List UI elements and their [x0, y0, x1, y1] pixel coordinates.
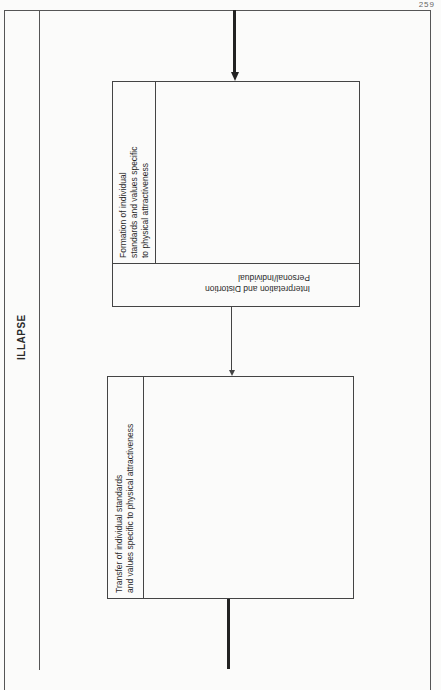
transfer-label-line1: Transfer of individual standards [114, 424, 125, 593]
entry-arrow-line [233, 10, 236, 74]
interpretation-band: Interpretation and Distortion Personal/I… [170, 272, 310, 294]
formation-label: Formation of individual standards and va… [118, 146, 151, 258]
title-column-divider [39, 10, 40, 670]
band-line2: Interpretation and Distortion [170, 283, 310, 294]
connector-line [231, 307, 232, 371]
entry-arrowhead-icon [231, 72, 239, 81]
transfer-label-line2: and values specific to physical attracti… [125, 424, 136, 593]
band-line1: Personal/Individual [170, 272, 310, 283]
exit-line [227, 599, 230, 669]
formation-band-divider [112, 263, 360, 264]
transfer-label: Transfer of individual standards and val… [114, 424, 136, 593]
transfer-box [107, 376, 354, 599]
formation-label-line2: standards and values specific [129, 146, 140, 258]
formation-label-divider [155, 81, 156, 263]
page-number: 259 [419, 0, 435, 9]
side-title: ILLAPSE [16, 314, 27, 360]
formation-label-line3: to physical attractiveness [140, 146, 151, 258]
transfer-label-divider [143, 376, 144, 599]
formation-label-line1: Formation of individual [118, 146, 129, 258]
